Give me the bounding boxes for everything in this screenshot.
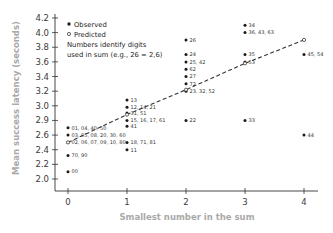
point-label: 25, 42 bbox=[190, 59, 206, 65]
point-label: 24 bbox=[190, 51, 196, 57]
predicted-point bbox=[66, 141, 69, 144]
y-tick-label: 3.8 bbox=[35, 42, 49, 52]
x-tick-label: 0 bbox=[65, 197, 70, 207]
legend: Observed Predicted Numbers identify digi… bbox=[67, 21, 163, 59]
point-label: 02, 06, 07, 09, 10, 80 bbox=[72, 139, 126, 145]
point-label: 23, 32, 52 bbox=[190, 88, 215, 94]
predicted-marker-icon bbox=[67, 32, 70, 35]
data-point: 35 bbox=[244, 51, 255, 57]
predicted-point bbox=[184, 88, 187, 91]
point-label: 01, 04, 40, 50 bbox=[72, 125, 107, 131]
data-point: 03, 05, 08, 20, 30, 60 bbox=[67, 132, 126, 138]
data-point: 18, 71, 81 bbox=[126, 139, 156, 145]
y-tick-label: 2.6 bbox=[35, 130, 49, 140]
y-axis: 4.24.03.83.63.43.23.02.92.62.42.22.0 Mea… bbox=[11, 13, 58, 191]
y-tick-label: 2.4 bbox=[35, 145, 49, 155]
legend-note-line2: used in sum (e.g., 26 = 2,6) bbox=[67, 51, 163, 59]
data-point: 23, 32, 52 bbox=[185, 88, 215, 94]
x-axis-label: Smallest number in the sum bbox=[119, 212, 254, 222]
point-label: 26 bbox=[190, 37, 196, 43]
data-point: 25, 42 bbox=[185, 59, 206, 65]
data-point: 70, 90 bbox=[67, 152, 88, 158]
point-label: 72 bbox=[190, 81, 196, 87]
point-label: 70, 90 bbox=[72, 152, 88, 158]
predicted-point bbox=[243, 62, 246, 65]
point-label: 62 bbox=[190, 66, 196, 72]
data-point: 33 bbox=[244, 117, 255, 123]
y-tick-label: 2.2 bbox=[35, 159, 49, 169]
observed-marker-icon bbox=[67, 22, 70, 25]
point-label: 00 bbox=[72, 168, 78, 174]
point-label: 41 bbox=[131, 123, 137, 129]
y-tick-label: 3.4 bbox=[35, 72, 49, 82]
point-label: 13 bbox=[131, 97, 137, 103]
data-point: 13 bbox=[126, 97, 137, 103]
data-point: 44 bbox=[303, 132, 314, 138]
scatter-chart: 4.24.03.83.63.43.23.02.92.62.42.22.0 Mea… bbox=[0, 0, 333, 233]
y-tick-label: 3.6 bbox=[35, 57, 49, 67]
y-tick-label: 3.2 bbox=[35, 86, 49, 96]
predicted-point bbox=[302, 38, 305, 41]
point-label: 18, 71, 81 bbox=[131, 139, 156, 145]
point-label: 22 bbox=[190, 117, 196, 123]
y-tick-label: 4.0 bbox=[35, 28, 49, 38]
legend-predicted: Predicted bbox=[74, 31, 106, 39]
point-label: 11 bbox=[131, 147, 137, 153]
data-point: 45, 54 bbox=[303, 51, 324, 57]
data-point: 62 bbox=[185, 66, 196, 72]
data-point: 00 bbox=[67, 168, 78, 174]
data-point: 72 bbox=[185, 81, 196, 87]
x-tick-label: 4 bbox=[301, 197, 306, 207]
legend-note-line1: Numbers identify digits bbox=[67, 41, 147, 49]
point-label: 33 bbox=[249, 117, 255, 123]
point-label: 36, 43, 63 bbox=[249, 29, 274, 35]
point-label: 45, 54 bbox=[308, 51, 324, 57]
y-tick-label: 4.2 bbox=[35, 13, 49, 23]
x-axis: 01234 Smallest number in the sum bbox=[55, 188, 318, 222]
y-tick-label: 2.0 bbox=[35, 174, 49, 184]
point-label: 34 bbox=[249, 22, 255, 28]
predicted-point bbox=[125, 113, 128, 116]
point-label: 53 bbox=[249, 59, 255, 65]
legend-observed: Observed bbox=[74, 21, 107, 29]
data-point: 41 bbox=[126, 123, 137, 129]
data-point: 36, 43, 63 bbox=[244, 29, 274, 35]
point-label: 03, 05, 08, 20, 30, 60 bbox=[72, 132, 126, 138]
data-point: 01, 04, 40, 50 bbox=[67, 125, 107, 131]
data-point: 26 bbox=[185, 37, 196, 43]
data-point: 02, 06, 07, 09, 10, 80 bbox=[67, 139, 126, 145]
data-point: 11 bbox=[126, 147, 137, 153]
point-label: 35 bbox=[249, 51, 255, 57]
data-point: 22 bbox=[185, 117, 196, 123]
data-point: 27 bbox=[185, 73, 196, 79]
y-tick-label: 2.9 bbox=[35, 115, 49, 125]
point-label: 44 bbox=[308, 132, 314, 138]
data-point: 34 bbox=[244, 22, 255, 28]
x-tick-label: 3 bbox=[242, 197, 247, 207]
data-point: 24 bbox=[185, 51, 196, 57]
point-label: 31, 51 bbox=[131, 110, 147, 116]
point-label: 27 bbox=[190, 73, 196, 79]
y-tick-label: 3.0 bbox=[35, 101, 49, 111]
x-tick-label: 1 bbox=[124, 197, 129, 207]
y-axis-label: Mean success latency (seconds) bbox=[11, 21, 21, 175]
x-tick-label: 2 bbox=[183, 197, 188, 207]
